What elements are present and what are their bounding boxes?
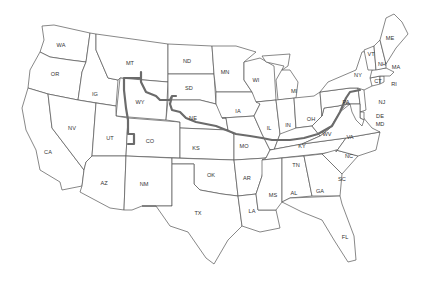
label-md: MD — [376, 121, 385, 127]
label-tn: TN — [292, 162, 299, 168]
state-mt — [96, 34, 168, 82]
label-de: DE — [376, 113, 384, 119]
label-or: OR — [51, 71, 59, 77]
label-al: AL — [291, 190, 298, 196]
us-states-map: WA OR IG MT ND SD MN WI MI NY VT NH ME M… — [0, 0, 431, 283]
label-ky: KY — [298, 143, 306, 149]
label-nh: NH — [378, 61, 386, 67]
label-me: ME — [386, 35, 395, 41]
label-wi: WI — [253, 77, 260, 83]
label-va: VA — [346, 134, 353, 140]
label-ma: MA — [392, 64, 401, 70]
label-mo: MO — [239, 143, 249, 149]
label-nd: ND — [183, 58, 191, 64]
label-wa: WA — [57, 42, 66, 48]
label-vt: VT — [367, 51, 375, 57]
label-mt: MT — [126, 60, 135, 66]
label-il: IL — [267, 125, 272, 131]
label-ks: KS — [192, 145, 200, 151]
label-ca: CA — [44, 149, 52, 155]
state-fl — [282, 196, 356, 262]
label-oh: OH — [307, 116, 315, 122]
label-ne: NE — [189, 115, 197, 121]
label-ok: OK — [207, 172, 215, 178]
label-ia: IA — [235, 108, 241, 114]
label-ms: MS — [269, 192, 278, 198]
label-id: IG — [92, 91, 98, 97]
label-nj: NJ — [379, 99, 386, 105]
label-ct: CT — [374, 78, 382, 84]
label-in: IN — [285, 122, 291, 128]
label-ny: NY — [354, 72, 362, 78]
label-nv: NV — [68, 125, 76, 131]
label-fl: FL — [342, 234, 349, 240]
label-ut: UT — [106, 135, 114, 141]
label-pa: PA — [342, 99, 349, 105]
label-wv: WV — [322, 131, 331, 137]
label-sc: SC — [338, 176, 346, 182]
label-nc: NC — [345, 153, 353, 159]
label-sd: SD — [185, 85, 193, 91]
state-ks — [180, 128, 234, 160]
label-az: AZ — [100, 180, 108, 186]
label-ga: GA — [316, 188, 324, 194]
label-tx: TX — [194, 210, 201, 216]
label-ri: RI — [391, 81, 397, 87]
label-co: CO — [146, 138, 155, 144]
label-nm: NM — [140, 181, 149, 187]
label-mn: MN — [221, 69, 230, 75]
label-wy: WY — [135, 99, 144, 105]
label-la: LA — [249, 208, 256, 214]
label-ar: AR — [243, 175, 251, 181]
label-mi: MI — [291, 88, 298, 94]
